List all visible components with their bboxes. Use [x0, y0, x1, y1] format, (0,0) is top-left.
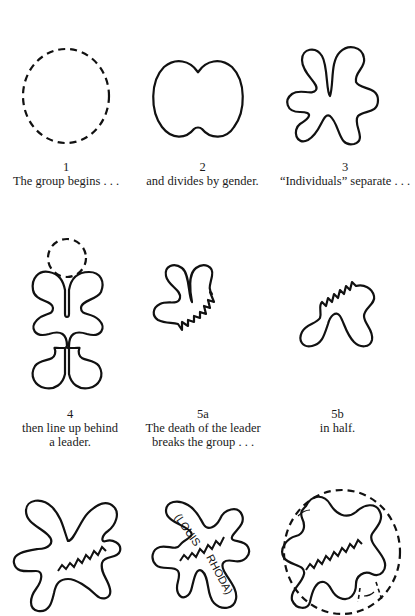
caption-text: The death of the leader: [138, 421, 268, 435]
figure-5a: [152, 262, 232, 337]
dashed-circle-icon: [20, 45, 120, 145]
figure-number: 4: [10, 407, 130, 421]
rejoined-blob-with-names-icon: (LOUIS RHODA): [148, 497, 263, 616]
figure-6: [12, 495, 127, 616]
caption-5a: 5a The death of the leader breaks the gr…: [138, 407, 268, 449]
caption-text: in half.: [295, 421, 380, 435]
upper-half-jagged-icon: [152, 262, 232, 337]
rejoined-blob-icon: [12, 495, 127, 616]
figure-7: (LOUIS RHODA): [148, 497, 263, 616]
figure-1: [20, 45, 120, 145]
figure-number: 5a: [138, 407, 268, 421]
caption-5b: 5b in half.: [295, 407, 380, 435]
caption-text: The group begins . . .: [0, 174, 132, 188]
figure-number: 1: [0, 160, 132, 174]
caption-1: 1 The group begins . . .: [0, 160, 132, 188]
caption-4: 4 then line up behind a leader.: [10, 407, 130, 449]
caption-3: 3 “Individuals” separate . . .: [275, 160, 415, 188]
six-armed-blob-icon: [282, 44, 382, 148]
caption-2: 2 and divides by gender.: [140, 160, 265, 188]
two-lobed-blob-icon: [150, 55, 250, 145]
figure-8: [280, 488, 402, 616]
figure-number: 2: [140, 160, 265, 174]
leader-and-group-icon: [25, 238, 115, 398]
lower-half-jagged-icon: [298, 282, 388, 357]
caption-text: a leader.: [10, 435, 130, 449]
caption-text: then line up behind: [10, 421, 130, 435]
figure-2: [150, 55, 250, 145]
figure-5b: [298, 282, 388, 357]
caption-text: and divides by gender.: [140, 174, 265, 188]
figure-number: 5b: [295, 407, 380, 421]
figure-number: 3: [275, 160, 415, 174]
caption-text: breaks the group . . .: [138, 435, 268, 449]
figure-4: [25, 238, 115, 398]
caption-text: “Individuals” separate . . .: [275, 174, 415, 188]
figure-3: [282, 44, 382, 148]
blob-in-dashed-circle-icon: [280, 488, 402, 616]
